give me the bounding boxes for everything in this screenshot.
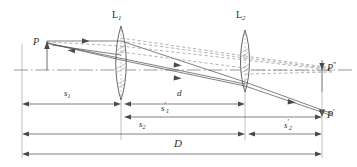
dimension-label-s1-prime: s′1: [161, 103, 169, 114]
optics-ray-diagram-figure: L1 L2 P P″ P′ s1 d s′1 s2 s′2 D: [0, 0, 357, 167]
dimension-line-s2: [22, 131, 245, 136]
point-label-P-double-prime: P″: [327, 62, 336, 73]
dimension-line-D: [22, 151, 322, 156]
image-point-Ppp-marker: [319, 60, 324, 92]
lens-label-L1: L1: [112, 10, 122, 21]
lens-label-L2: L2: [236, 10, 246, 21]
dimension-label-s2-prime: s′2: [284, 120, 292, 131]
point-label-P: P: [33, 36, 39, 47]
dimension-extension-lines: [22, 44, 322, 158]
dimension-label-s2: s2: [139, 120, 146, 130]
dimension-lines: [22, 101, 322, 156]
object-point-P-marker: [44, 41, 50, 70]
dashed-ray-bundle: [47, 38, 333, 74]
dimension-label-D: D: [174, 138, 182, 149]
dimension-label-s1: s1: [64, 89, 71, 99]
lens-L2: [239, 30, 251, 92]
lens-L1: [114, 26, 128, 100]
dimension-label-d: d: [177, 89, 182, 98]
point-label-P-prime: P′: [327, 109, 335, 120]
solid-ray-bundle: [47, 41, 333, 116]
dimension-line-s2-prime: [248, 131, 322, 136]
dimension-line-s1: [22, 101, 121, 106]
dimension-line-s1-prime: [124, 114, 322, 119]
dimension-line-d: [124, 101, 245, 106]
